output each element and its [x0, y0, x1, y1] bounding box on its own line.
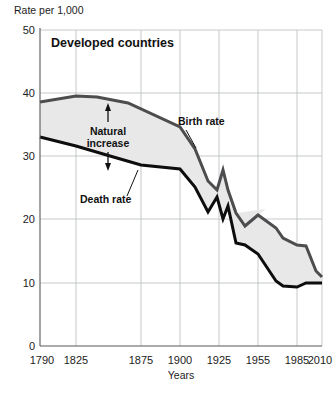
y-tick-label-40: 40: [23, 87, 35, 99]
death-rate-leader-line: [127, 170, 138, 196]
x-tick-label-1985: 1985: [285, 354, 309, 366]
x-axis-caption: Years: [168, 369, 194, 381]
x-tick-label-1925: 1925: [207, 354, 231, 366]
birth-rate-label: Birth rate: [178, 115, 225, 127]
x-tick-label-1825: 1825: [64, 354, 88, 366]
y-tick-label-30: 30: [23, 150, 35, 162]
death-rate-annotation: Death rate: [80, 170, 138, 205]
y-tick-label-20: 20: [23, 213, 35, 225]
y-axis-caption: Rate per 1,000: [14, 4, 84, 16]
natural-increase-label-line1: Natural: [90, 125, 126, 137]
x-tick-label-1900: 1900: [168, 354, 192, 366]
natural-increase-arrow-down-head: [105, 163, 111, 171]
x-tick-label-2010: 2010: [308, 354, 332, 366]
y-tick-label-50: 50: [23, 24, 35, 36]
y-tick-label-0: 0: [29, 340, 35, 352]
x-tick-label-1875: 1875: [129, 354, 153, 366]
x-tick-label-1955: 1955: [246, 354, 270, 366]
line-chart-figure: Rate per 1,000 50 40: [0, 0, 336, 393]
panel-title: Developed countries: [51, 36, 174, 50]
chart-container: Rate per 1,000 50 40: [0, 0, 336, 393]
death-rate-label: Death rate: [80, 193, 132, 205]
natural-increase-label-line2: increase: [87, 137, 130, 149]
y-tick-label-10: 10: [23, 277, 35, 289]
x-tick-label-1790: 1790: [30, 354, 54, 366]
